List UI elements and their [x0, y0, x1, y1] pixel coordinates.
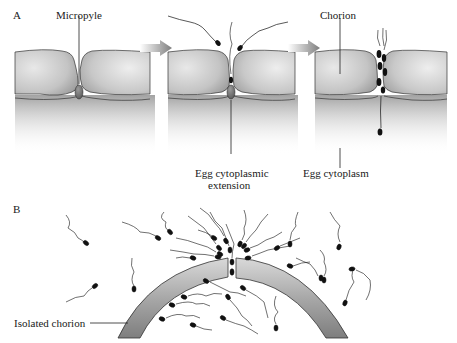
panel-a-letter: A	[13, 9, 21, 21]
stage-2-sperm-approaching	[168, 16, 298, 155]
stage-1-micropyle	[15, 16, 155, 155]
stage-3-sperm-entering	[315, 18, 447, 168]
egg-cytoplasmic-extension-label-line1: Egg cytoplasmic	[195, 167, 269, 179]
sperm-icon	[229, 77, 233, 83]
chorion-label: Chorion	[320, 9, 356, 21]
isolated-chorion-label: Isolated chorion	[14, 317, 85, 329]
egg-cytoplasm-label: Egg cytoplasm	[303, 167, 369, 179]
isolated-chorion-ring	[90, 258, 348, 338]
panel-b-letter: B	[13, 203, 20, 215]
egg-cytoplasmic-extension-label-line2: extension	[208, 179, 250, 191]
micropyle-label: Micropyle	[56, 9, 102, 21]
sperm-icon	[214, 39, 221, 47]
sperm-icon	[378, 128, 383, 135]
